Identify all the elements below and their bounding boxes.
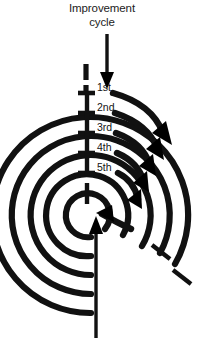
figure-title-line-1: Improvement [0,1,204,15]
ring-label-5th: 5th [97,162,112,173]
ring-label-2nd: 2nd [97,102,115,113]
spiral-diagram-svg [0,0,204,347]
ring-label-1st: 1st [97,82,111,93]
figure-title: Improvement cycle [0,1,204,29]
ring-label-3rd: 3rd [97,122,112,133]
outer-tick-outer [173,270,191,284]
figure-title-line-2: cycle [0,15,204,29]
ring-label-4th: 4th [97,142,112,153]
center-converge-arrow-head [96,205,114,222]
outer-tick-marks [152,245,191,284]
figure-caption [0,338,204,347]
spiral-improvement-cycle-figure: Improvement cycle [0,0,204,347]
radius-tick-marks [78,93,95,204]
